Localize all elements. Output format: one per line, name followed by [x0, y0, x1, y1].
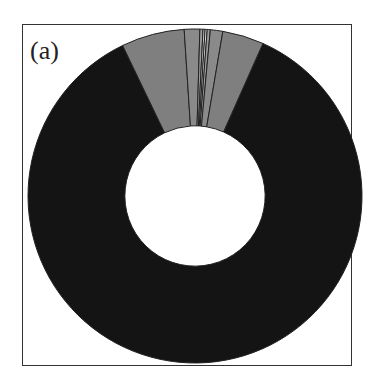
donut-chart	[0, 0, 373, 388]
